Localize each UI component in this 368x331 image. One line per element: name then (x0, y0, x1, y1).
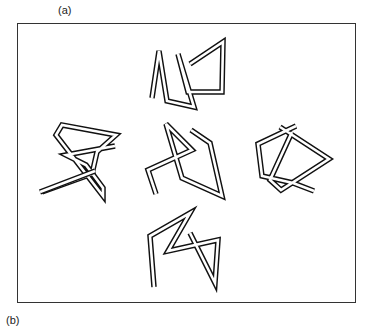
knot-center (148, 124, 222, 196)
panel-label-b: (b) (6, 314, 19, 326)
knot-right (258, 126, 329, 191)
knot-bottom (150, 213, 218, 287)
knot-top (152, 42, 223, 107)
knot-left (40, 125, 116, 196)
knot-figure (0, 0, 368, 331)
